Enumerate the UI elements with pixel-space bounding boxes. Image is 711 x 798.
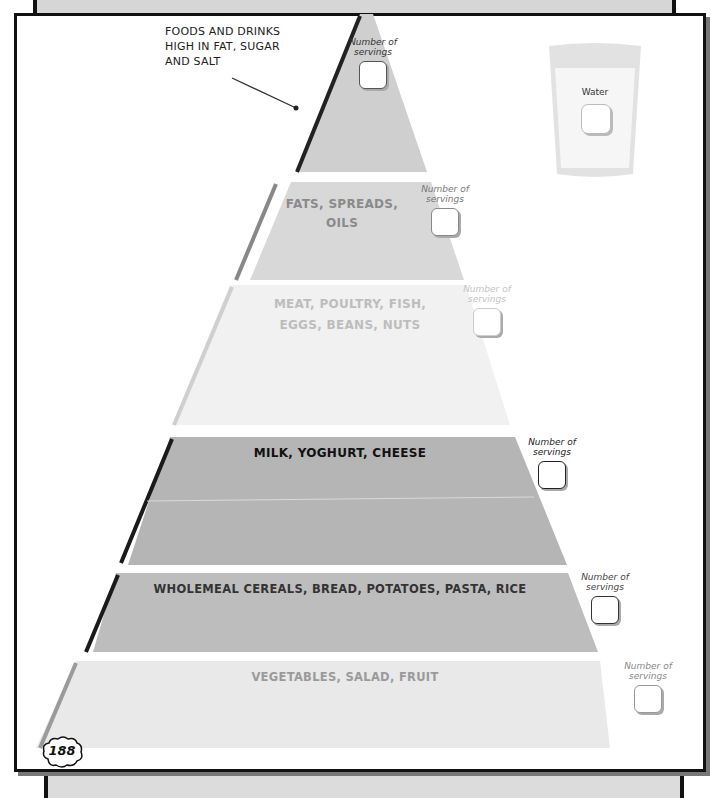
servings-veg-input[interactable]: [634, 685, 662, 713]
level-label-meat: MEAT, POULTRY, FISH, EGGS, BEANS, NUTS: [250, 294, 450, 336]
servings-milk-input[interactable]: [538, 461, 566, 489]
level-label-cereals-line-1: WHOLEMEAL CEREALS, BREAD, POTATOES, PAST…: [150, 582, 530, 596]
level-label-fats-line-2: OILS: [262, 214, 422, 233]
page-number: 188: [40, 743, 84, 758]
annotation-pointer-line: [232, 78, 296, 108]
servings-top-label-2: servings: [343, 47, 403, 57]
page-number-badge: 188: [40, 735, 84, 769]
level-label-veg: VEGETABLES, SALAD, FRUIT: [230, 670, 460, 684]
annotation-pointer-dot: [294, 106, 299, 111]
servings-cereals-label-2: servings: [575, 582, 635, 592]
level-label-meat-line-1: MEAT, POULTRY, FISH,: [250, 294, 450, 315]
annotation-line-1: FOODS AND DRINKS: [165, 24, 280, 39]
servings-milk-label-1: Number of: [522, 437, 582, 447]
servings-fats-label-1: Number of: [415, 184, 475, 194]
servings-meat-label-1: Number of: [457, 284, 517, 294]
water-servings-input[interactable]: [581, 104, 611, 134]
servings-meat-input[interactable]: [473, 308, 501, 336]
level-label-meat-line-2: EGGS, BEANS, NUTS: [250, 315, 450, 336]
servings-milk-label-2: servings: [522, 447, 582, 457]
servings-cereals: Number of servings: [575, 572, 635, 624]
level-label-fats-line-1: FATS, SPREADS,: [262, 195, 422, 214]
servings-cereals-label-1: Number of: [575, 572, 635, 582]
servings-veg-label-1: Number of: [618, 661, 678, 671]
servings-veg-label-2: servings: [618, 671, 678, 681]
servings-top: Number of servings: [343, 37, 403, 89]
annotation-line-2: HIGH IN FAT, SUGAR: [165, 39, 280, 54]
level-label-cereals: WHOLEMEAL CEREALS, BREAD, POTATOES, PAST…: [150, 582, 530, 596]
servings-top-input[interactable]: [359, 61, 387, 89]
level-label-milk-line-1: MILK, YOGHURT, CHEESE: [240, 446, 440, 460]
annotation-label: FOODS AND DRINKS HIGH IN FAT, SUGAR AND …: [165, 24, 280, 69]
servings-fats: Number of servings: [415, 184, 475, 236]
level-label-fats: FATS, SPREADS, OILS: [262, 195, 422, 233]
water-glass: Water: [549, 44, 641, 176]
servings-veg: Number of servings: [618, 661, 678, 713]
servings-fats-input[interactable]: [431, 208, 459, 236]
level-label-milk: MILK, YOGHURT, CHEESE: [240, 446, 440, 460]
servings-fats-label-2: servings: [415, 194, 475, 204]
servings-top-label-1: Number of: [343, 37, 403, 47]
servings-milk: Number of servings: [522, 437, 582, 489]
servings-meat: Number of servings: [457, 284, 517, 336]
level-label-veg-line-1: VEGETABLES, SALAD, FRUIT: [230, 670, 460, 684]
water-label: Water: [549, 87, 641, 97]
annotation-line-3: AND SALT: [165, 54, 280, 69]
servings-meat-label-2: servings: [457, 294, 517, 304]
servings-cereals-input[interactable]: [591, 596, 619, 624]
